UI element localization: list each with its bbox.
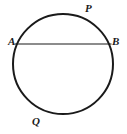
point-label-q: Q — [32, 116, 40, 127]
point-label-b: B — [112, 36, 119, 47]
circle-outline — [13, 14, 113, 114]
point-label-p: P — [85, 3, 92, 14]
point-label-a: A — [8, 36, 15, 47]
circle-chord-drawing — [0, 0, 127, 134]
geometry-figure: A B P Q — [0, 0, 127, 134]
